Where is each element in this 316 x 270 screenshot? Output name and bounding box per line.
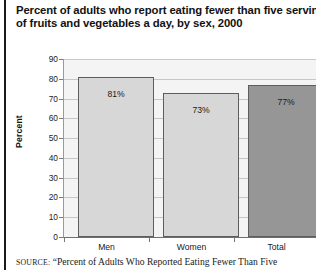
source-note: SOURCE: “Percent of Adults Who Reported … xyxy=(16,256,312,267)
x-tick-label-men: Men xyxy=(64,242,149,252)
bar-value-label-women: 73% xyxy=(164,105,238,115)
x-tick-label-total: Total xyxy=(234,242,316,252)
bar-chart: Percent 90 80 70 60 50 40 30 20 10 0 xyxy=(16,46,308,250)
x-tick-label-women: Women xyxy=(149,242,234,252)
figure-title-line-1: Percent of adults who report eating fewe… xyxy=(16,4,308,17)
left-margin-rule xyxy=(4,0,6,270)
bar-series: 81% 73% 77% xyxy=(64,59,316,237)
bar-men[interactable]: 81% xyxy=(78,77,154,237)
source-note-prefix: SOURCE: xyxy=(16,258,50,267)
figure-title: Percent of adults who report eating fewe… xyxy=(16,4,308,30)
bar-value-label-men: 81% xyxy=(79,89,153,99)
source-note-text: “Percent of Adults Who Reported Eating F… xyxy=(53,256,278,267)
bar-total[interactable]: 77% xyxy=(248,85,316,237)
y-axis-tick-marks xyxy=(16,59,63,237)
figure-page: Percent of adults who report eating fewe… xyxy=(0,0,316,270)
bar-value-label-total: 77% xyxy=(249,97,316,107)
bar-women[interactable]: 73% xyxy=(163,93,239,237)
figure-title-line-2: of fruits and vegetables a day, by sex, … xyxy=(16,17,308,30)
